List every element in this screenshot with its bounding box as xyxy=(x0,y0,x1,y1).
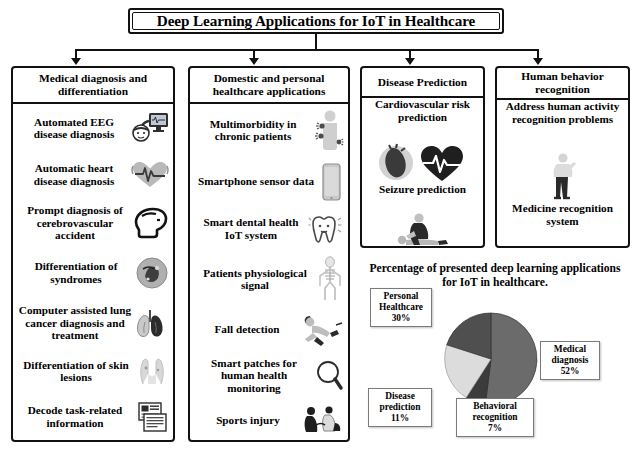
skin-lesion-icon xyxy=(135,356,169,386)
arrowhead-column-4 xyxy=(533,58,543,65)
list-item[interactable]: Prompt diagnosis of cerebrovascular acci… xyxy=(13,197,173,249)
pie-callout-disease-prediction[interactable]: Disease prediction 11% xyxy=(368,388,432,427)
pie-chart-panel: Percentage of presented deep learning ap… xyxy=(356,256,632,454)
item-label: Smartphone sensor data xyxy=(194,175,318,188)
tooth-icon xyxy=(308,212,344,246)
item-label: Patients physiological signal xyxy=(194,267,316,292)
column-human-behavior: Human behavior recognition Address human… xyxy=(495,66,630,248)
standing-person-icon xyxy=(546,152,580,202)
lungs-icon xyxy=(133,306,169,340)
pie-callout-value: 52% xyxy=(544,366,596,377)
column-4-body: Address human activity recognition probl… xyxy=(497,100,628,246)
syndrome-cell-icon xyxy=(135,256,169,290)
column-4-header-label: Human behavior recognition xyxy=(501,70,624,96)
eeg-monitor-icon xyxy=(131,111,169,145)
list-item[interactable]: Sports injury xyxy=(190,400,348,440)
column-1-header-label: Medical diagnosis and differentiation xyxy=(17,72,169,98)
smartphone-icon xyxy=(318,162,344,202)
pie-callout-label: Medical diagnosis xyxy=(552,344,589,365)
documents-icon xyxy=(133,401,169,433)
column-medical-diagnosis: Medical diagnosis and differentiation Au… xyxy=(11,66,175,442)
item-label: Sports injury xyxy=(194,414,302,427)
item-label: Automated EEG disease diagnosis xyxy=(17,116,131,141)
sports-injury-icon xyxy=(302,405,344,435)
connector-bus-horizontal xyxy=(76,49,538,51)
column-1-body: Automated EEG disease diagnosis xyxy=(13,104,173,440)
pie-callout-medical-diagnosis[interactable]: Medical diagnosis 52% xyxy=(540,341,600,380)
list-item[interactable]: Differentiation of syndromes xyxy=(13,249,173,297)
list-item[interactable]: Patients physiological signal xyxy=(190,251,348,307)
pie-callout-behavioral-recognition[interactable]: Behavioral recognition 7% xyxy=(456,398,534,437)
list-item[interactable]: Seizure prediction xyxy=(362,183,483,246)
first-aid-person-icon xyxy=(386,212,460,246)
item-label: Address human activity recognition probl… xyxy=(501,100,624,151)
pie-chart-svg xyxy=(444,312,538,406)
pie-slice-medical-diagnosis[interactable] xyxy=(485,313,537,405)
list-item[interactable]: Smart dental health IoT system xyxy=(190,207,348,251)
column-2-header: Domestic and personal healthcare applica… xyxy=(190,68,348,104)
pie-callout-value: 30% xyxy=(374,313,428,324)
anatomic-heart-icon xyxy=(370,143,476,183)
falling-person-icon xyxy=(300,313,344,347)
list-item[interactable]: Automated EEG disease diagnosis xyxy=(13,104,173,152)
pie-callout-label: Behavioral recognition xyxy=(472,401,517,422)
arrowhead-column-3 xyxy=(405,58,415,65)
list-item[interactable]: Decode task-related information xyxy=(13,394,173,440)
item-label: Differentiation of skin lesions xyxy=(17,359,135,384)
list-item[interactable]: Differentiation of skin lesions xyxy=(13,349,173,393)
item-label: Automatic heart disease diagnosis xyxy=(17,162,131,187)
head-stroke-icon xyxy=(133,207,169,239)
page-title: Deep Learning Applications for IoT in He… xyxy=(157,12,475,30)
arrowhead-column-1 xyxy=(71,58,81,65)
diagram-canvas: Deep Learning Applications for IoT in He… xyxy=(0,0,632,457)
connector-trunk-vertical xyxy=(315,34,317,50)
column-1-header: Medical diagnosis and differentiation xyxy=(13,68,173,104)
pie-chart xyxy=(444,312,538,406)
pie-callout-value: 11% xyxy=(372,413,428,424)
item-label: Seizure prediction xyxy=(366,183,479,211)
item-label: Medicine recognition system xyxy=(501,202,624,246)
item-label: Decode task-related information xyxy=(17,404,133,429)
item-label: Computer assisted lung cancer diagnosis … xyxy=(17,304,133,342)
pie-callout-value: 7% xyxy=(460,423,530,434)
pie-callout-personal-healthcare[interactable]: Personal Healthcare 30% xyxy=(370,288,432,327)
column-4-header: Human behavior recognition xyxy=(497,68,628,100)
column-3-header: Disease Prediction xyxy=(362,68,483,98)
item-label: Differentiation of syndromes xyxy=(17,260,135,285)
list-item[interactable]: Computer assisted lung cancer diagnosis … xyxy=(13,297,173,349)
list-item[interactable]: Automatic heart disease diagnosis xyxy=(13,152,173,196)
pie-chart-title: Percentage of presented deep learning ap… xyxy=(364,262,626,290)
list-item[interactable]: Medicine recognition system xyxy=(497,202,628,246)
item-label: Smart patches for human health monitorin… xyxy=(194,357,314,395)
column-2-body: Multimorbidity in chronic patients xyxy=(190,104,348,440)
column-3-body: Cardiovascular risk prediction Seizure p… xyxy=(362,98,483,246)
column-domestic-personal: Domestic and personal healthcare applica… xyxy=(188,66,350,442)
body-sensors-icon xyxy=(312,109,344,151)
arrowhead-column-2 xyxy=(249,58,259,65)
root-title-box: Deep Learning Applications for IoT in He… xyxy=(128,8,504,34)
list-item[interactable]: Smartphone sensor data xyxy=(190,156,348,206)
pie-callout-label: Personal Healthcare xyxy=(379,291,423,312)
item-label: Fall detection xyxy=(194,323,300,336)
list-item[interactable]: Cardiovascular risk prediction xyxy=(362,98,483,183)
column-disease-prediction: Disease Prediction Cardiovascular risk p… xyxy=(360,66,485,248)
item-label: Cardiovascular risk prediction xyxy=(366,98,479,141)
list-item[interactable]: Address human activity recognition probl… xyxy=(497,100,628,202)
item-label: Smart dental health IoT system xyxy=(194,216,308,241)
list-item[interactable]: Fall detection xyxy=(190,307,348,351)
skeleton-body-icon xyxy=(316,256,344,302)
item-label: Multimorbidity in chronic patients xyxy=(194,118,312,143)
list-item[interactable]: Multimorbidity in chronic patients xyxy=(190,104,348,156)
column-2-header-label: Domestic and personal healthcare applica… xyxy=(194,72,344,98)
magnifier-icon xyxy=(314,359,344,393)
item-label: Prompt diagnosis of cerebrovascular acci… xyxy=(17,204,133,242)
column-3-header-label: Disease Prediction xyxy=(378,76,467,89)
pie-callout-label: Disease prediction xyxy=(380,391,421,412)
heart-ecg-icon xyxy=(131,160,169,190)
list-item[interactable]: Smart patches for human health monitorin… xyxy=(190,352,348,400)
